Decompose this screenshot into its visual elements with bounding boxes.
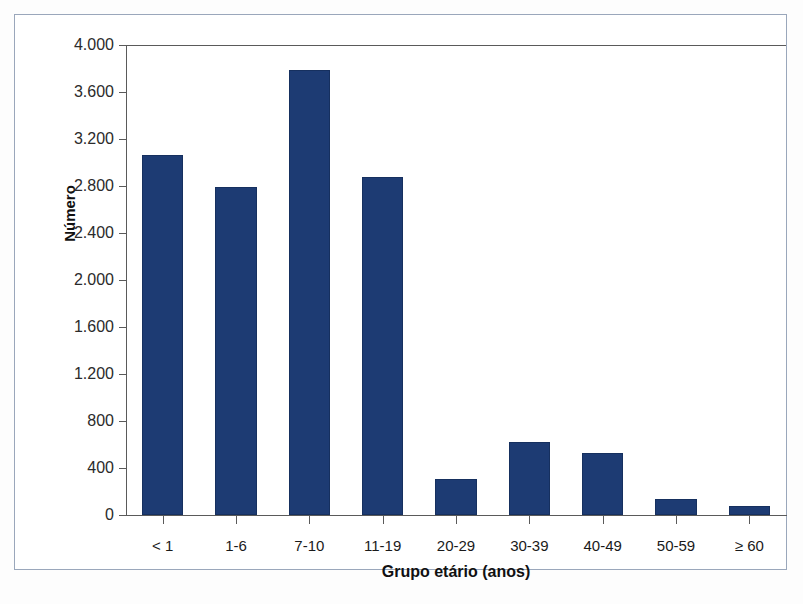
chart-page: Número 4.000 3.600 3.200 2.800 2.400 2.0…	[0, 0, 803, 604]
bar	[729, 506, 770, 515]
y-tick	[119, 186, 126, 187]
y-tick	[119, 92, 126, 93]
x-tick	[603, 515, 604, 524]
x-tick	[749, 515, 750, 524]
y-tick-label: 3.200	[44, 130, 114, 148]
figure-frame: Número 4.000 3.600 3.200 2.800 2.400 2.0…	[14, 14, 787, 570]
x-tick-label: ≥ 60	[735, 537, 764, 554]
x-tick	[676, 515, 677, 524]
y-tick	[119, 515, 126, 516]
y-tick	[119, 468, 126, 469]
y-tick-label: 400	[44, 459, 114, 477]
y-tick	[119, 374, 126, 375]
y-axis-line	[126, 45, 127, 515]
y-tick-label: 2.400	[44, 224, 114, 242]
y-tick-label: 2.000	[44, 271, 114, 289]
x-tick	[383, 515, 384, 524]
bar	[509, 442, 550, 515]
x-tick-label: 40-49	[583, 537, 621, 554]
x-tick	[529, 515, 530, 524]
x-tick	[456, 515, 457, 524]
x-tick	[236, 515, 237, 524]
y-tick	[119, 139, 126, 140]
bar	[289, 70, 330, 515]
bar	[582, 453, 623, 515]
y-tick	[119, 280, 126, 281]
y-tick-label: 0	[44, 506, 114, 524]
y-tick-label: 1.200	[44, 365, 114, 383]
bar	[142, 155, 183, 515]
x-tick	[163, 515, 164, 524]
x-tick-label: 1-6	[225, 537, 247, 554]
y-tick-label: 800	[44, 412, 114, 430]
y-axis-title: Número	[61, 154, 78, 274]
x-tick-label: 50-59	[657, 537, 695, 554]
y-tick-label: 3.600	[44, 83, 114, 101]
y-tick	[119, 233, 126, 234]
bar	[362, 177, 403, 515]
x-tick-label: < 1	[152, 537, 173, 554]
x-tick-label: 11-19	[364, 537, 401, 554]
y-tick-label: 4.000	[44, 36, 114, 54]
bar	[435, 479, 476, 515]
bar	[215, 187, 256, 515]
x-tick-label: 7-10	[294, 537, 324, 554]
x-axis-title: Grupo etário (anos)	[126, 563, 786, 581]
x-tick-label: 20-29	[437, 537, 475, 554]
x-tick-label: 30-39	[510, 537, 548, 554]
y-tick-label: 2.800	[44, 177, 114, 195]
y-tick	[119, 421, 126, 422]
x-tick	[309, 515, 310, 524]
plot-area: 4.000 3.600 3.200 2.800 2.400 2.000 1.60…	[126, 45, 786, 515]
bar	[655, 499, 696, 515]
plot-top-border	[126, 45, 786, 46]
y-tick-label: 1.600	[44, 318, 114, 336]
y-tick	[119, 327, 126, 328]
y-tick	[119, 45, 126, 46]
